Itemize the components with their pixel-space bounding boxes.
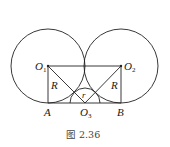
label-r-left: R: [50, 79, 58, 91]
geometry-figure: O1 O2 O3 A B R R r 图 2.36: [0, 0, 170, 147]
label-r-small: r: [82, 90, 86, 100]
label-o2: O2: [124, 60, 136, 74]
label-r-right: R: [110, 79, 118, 91]
point-o1-dot: [47, 65, 49, 67]
label-o3: O3: [80, 106, 92, 120]
label-a: A: [43, 106, 51, 118]
figure-caption: 图 2.36: [66, 129, 100, 140]
label-b: B: [117, 106, 124, 118]
label-o1: O1: [35, 60, 47, 74]
point-o2-dot: [120, 65, 122, 67]
